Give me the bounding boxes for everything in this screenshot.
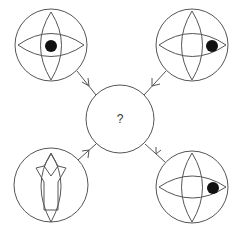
puzzle-diagram: ? (0, 0, 240, 232)
pupil-dot-icon (45, 40, 57, 52)
connector-top-left (77, 71, 96, 95)
y-shape-icon (36, 166, 66, 210)
connector-bottom-left (78, 144, 96, 160)
panel-top-right (156, 9, 228, 81)
arrowhead-icon (156, 147, 161, 154)
diamond-top-icon (44, 154, 58, 166)
pupil-dot-icon (206, 40, 218, 52)
panel-top-left (15, 9, 87, 81)
vertical-lens-icon (182, 11, 203, 80)
connector-top-right (144, 71, 166, 95)
panel-bottom-left (14, 148, 88, 222)
pupil-dot-icon (207, 182, 219, 194)
question-mark: ? (117, 112, 124, 126)
center-node: ? (86, 85, 154, 153)
connector-bottom-right (145, 144, 165, 162)
panel-bottom-right (156, 151, 228, 223)
vertical-lens-icon (182, 153, 203, 222)
